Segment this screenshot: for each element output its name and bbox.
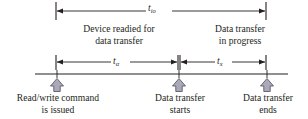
event-marker-arrow-read-write xyxy=(51,79,64,92)
t-io-dimension xyxy=(56,2,266,20)
event-label-transfer-ends-line2: ends xyxy=(226,104,308,116)
io-timing-diagram: tio tα tx Device readied for data transf… xyxy=(0,0,308,119)
event-label-read-write-command-line2: is issued xyxy=(2,104,114,116)
interval-subscript-t-io: io xyxy=(151,7,156,14)
phase-label-device-readied-line1: Device readied for xyxy=(56,23,182,35)
phase-label-transfer-progress-line2: in progress xyxy=(190,35,290,47)
phase-label-device-readied-line2: data transfer xyxy=(56,35,182,47)
interval-subscript-t-alpha: α xyxy=(116,60,119,67)
event-marker-arrow-transfer-ends xyxy=(261,79,274,92)
interval-label-t-alpha: tα xyxy=(111,56,121,67)
event-label-transfer-starts-line2: starts xyxy=(137,104,223,116)
event-marker-arrow-transfer-starts xyxy=(173,79,186,92)
phase-label-transfer-progress: Data transfer in progress xyxy=(190,23,290,46)
event-label-transfer-starts: Data transfer starts xyxy=(137,92,223,115)
phase-label-device-readied: Device readied for data transfer xyxy=(56,23,182,46)
event-label-read-write-command-line1: Read/write command xyxy=(2,92,114,104)
interval-label-t-x: tx xyxy=(215,56,225,67)
interval-subscript-t-x: x xyxy=(220,60,223,67)
interval-label-t-io: tio xyxy=(146,3,158,14)
event-label-read-write-command: Read/write command is issued xyxy=(2,92,114,115)
timeline-axis xyxy=(35,70,288,78)
phase-label-transfer-progress-line1: Data transfer xyxy=(190,23,290,35)
event-label-transfer-starts-line1: Data transfer xyxy=(137,92,223,104)
event-label-transfer-ends: Data transfer ends xyxy=(226,92,308,115)
event-label-transfer-ends-line1: Data transfer xyxy=(226,92,308,104)
